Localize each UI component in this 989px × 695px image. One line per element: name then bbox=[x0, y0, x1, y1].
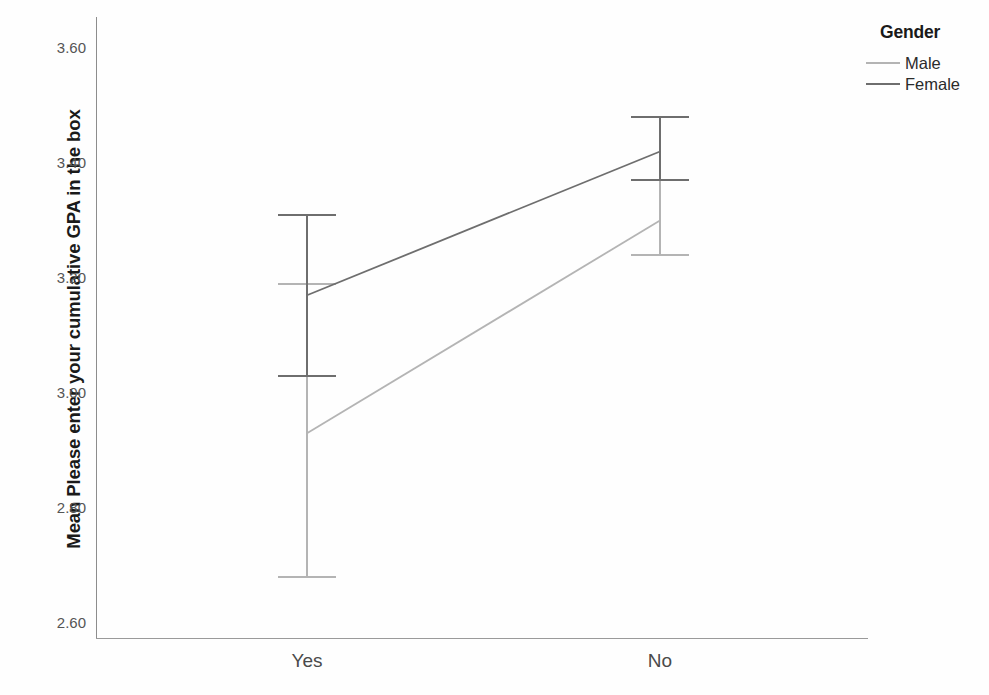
plot-area bbox=[0, 0, 989, 695]
legend-item-female[interactable]: Female bbox=[866, 73, 989, 94]
legend-title: Gender bbox=[880, 22, 989, 43]
chart-page: Mean Please enter your cumulative GPA in… bbox=[0, 0, 989, 695]
error-bar bbox=[631, 117, 689, 180]
series-female bbox=[278, 117, 689, 376]
series-male bbox=[278, 180, 689, 577]
x-axis-label-no: No bbox=[590, 650, 730, 672]
series-line bbox=[307, 221, 660, 434]
legend-swatch-male bbox=[866, 62, 900, 64]
x-axis-label-yes: Yes bbox=[237, 650, 377, 672]
legend: Gender Male Female bbox=[866, 22, 989, 94]
legend-label-male: Male bbox=[905, 54, 941, 72]
series-line bbox=[307, 152, 660, 296]
legend-item-male[interactable]: Male bbox=[866, 52, 989, 73]
legend-swatch-female bbox=[866, 83, 900, 85]
error-bar bbox=[631, 180, 689, 255]
legend-label-female: Female bbox=[905, 75, 960, 93]
